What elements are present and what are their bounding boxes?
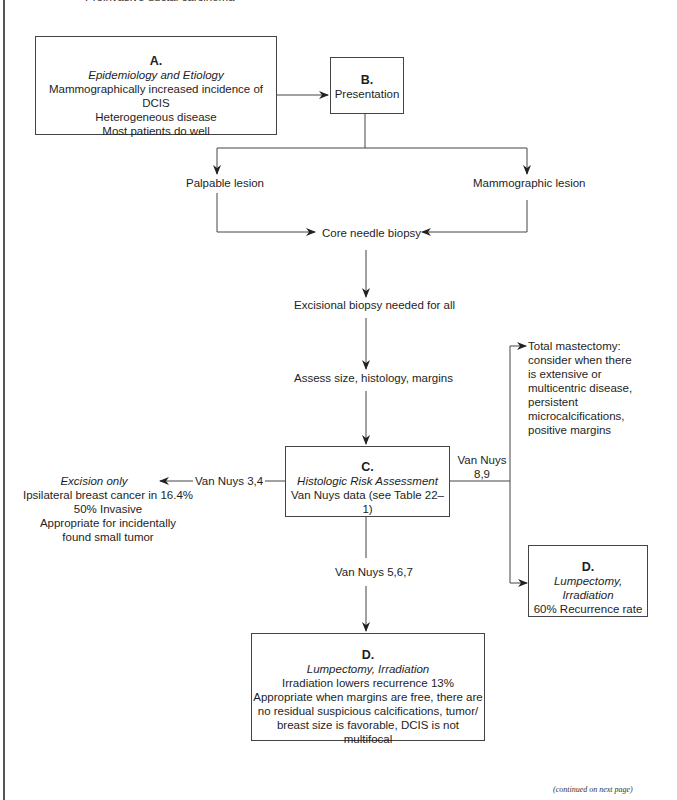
node-b-letter: B.: [331, 73, 403, 87]
edge-label-van-nuys-5-6-7: Van Nuys 5,6,7: [335, 565, 413, 579]
node-d-bottom-letter: D.: [252, 648, 484, 662]
node-c-line: Van Nuys data (see Table 22–1): [286, 488, 449, 516]
node-d-right-line: 60% Recurrence rate: [529, 602, 647, 616]
node-total-mastectomy-line: microcalcifications,: [528, 409, 632, 423]
node-palpable-lesion: Palpable lesion: [186, 176, 264, 190]
continued-note: (continued on next page): [553, 785, 633, 794]
node-d-lumpectomy-right: D. Lumpectomy, Irradiation 60% Recurrenc…: [528, 545, 648, 617]
node-total-mastectomy-line: Total mastectomy:: [528, 339, 632, 353]
node-a-letter: A.: [36, 54, 276, 68]
node-d-bottom-line: no residual suspicious calcifications, t…: [252, 704, 484, 718]
node-a-line: Mammographically increased incidence of …: [36, 82, 276, 110]
node-d-bottom-line: Appropriate when margins are free, there…: [252, 690, 484, 704]
node-d-bottom-line: Irradiation lowers recurrence 13%: [252, 676, 484, 690]
node-total-mastectomy: Total mastectomy: consider when there is…: [528, 339, 632, 437]
node-total-mastectomy-line: is extensive or: [528, 367, 632, 381]
node-excision-only-line: Appropriate for incidentally: [18, 516, 198, 530]
node-a-title: Epidemiology and Etiology: [36, 68, 276, 82]
node-total-mastectomy-line: multicentric disease,: [528, 381, 632, 395]
edge-label-line: Van Nuys: [457, 453, 507, 467]
node-a-line: Most patients do well: [36, 124, 276, 138]
node-c-risk-assessment: C. Histologic Risk Assessment Van Nuys d…: [285, 446, 450, 517]
edge-label-van-nuys-8-9: Van Nuys 8,9: [457, 453, 507, 481]
node-d-bottom-line: breast size is favorable, DCIS is not mu…: [252, 718, 484, 746]
node-c-letter: C.: [286, 460, 449, 474]
node-b-title: Presentation: [331, 87, 403, 101]
node-b-presentation: B. Presentation: [330, 57, 404, 114]
node-a-line: Heterogeneous disease: [36, 110, 276, 124]
node-a-epidemiology: A. Epidemiology and Etiology Mammographi…: [35, 36, 277, 135]
node-total-mastectomy-line: positive margins: [528, 423, 632, 437]
node-mammographic-lesion: Mammographic lesion: [473, 176, 586, 190]
node-c-title: Histologic Risk Assessment: [286, 474, 449, 488]
node-d-right-letter: D.: [529, 560, 647, 574]
node-excision-only-line: found small tumor: [18, 530, 198, 544]
node-d-right-title: Lumpectomy, Irradiation: [529, 574, 647, 602]
node-assess: Assess size, histology, margins: [294, 371, 453, 385]
node-excision-only-title: Excision only: [0, 474, 198, 488]
node-excision-only: Excision only Ipsilateral breast cancer …: [18, 474, 198, 544]
node-d-bottom-title: Lumpectomy, Irradiation: [252, 662, 484, 676]
node-core-needle-biopsy: Core needle biopsy: [322, 226, 421, 240]
node-total-mastectomy-line: consider when there: [528, 353, 632, 367]
edge-label-van-nuys-3-4: Van Nuys 3,4: [195, 474, 263, 488]
node-excisional-biopsy: Excisional biopsy needed for all: [294, 298, 455, 312]
edge-label-line: 8,9: [457, 467, 507, 481]
node-excision-only-line: Ipsilateral breast cancer in 16.4%: [18, 488, 198, 502]
node-excision-only-line: 50% Invasive: [18, 502, 198, 516]
node-d-lumpectomy-bottom: D. Lumpectomy, Irradiation Irradiation l…: [251, 633, 485, 741]
node-total-mastectomy-line: persistent: [528, 395, 632, 409]
